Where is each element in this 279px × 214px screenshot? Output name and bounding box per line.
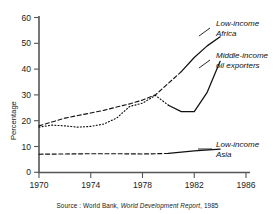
y-tick-label-20: 20 (22, 116, 32, 126)
series-line-low-income-asia-projected (39, 153, 168, 154)
y-tick-label-50: 50 (22, 38, 32, 48)
x-tick-label-1970: 1970 (30, 180, 49, 190)
x-tick-label-1978: 1978 (133, 180, 152, 190)
leader-line-africa (199, 28, 210, 36)
source-note: Source : World Bank, World Development R… (0, 202, 275, 209)
series-line-middle-income-oil-exporters-actual (168, 61, 220, 111)
series-line-middle-income-oil-exporters-projected (39, 95, 168, 127)
x-axis-tick-labels: 1970 1974 1978 1982 1986 (30, 180, 256, 190)
x-tick-label-1974: 1974 (81, 180, 100, 190)
x-axis-ticks (39, 173, 246, 179)
data-series-layer (39, 37, 220, 154)
y-tick-label-40: 40 (22, 64, 32, 74)
series-annotations: Low-income Africa Middle-income oil expo… (215, 19, 269, 159)
y-axis-tick-labels: 60 50 40 30 20 10 0 (22, 13, 32, 178)
x-tick-label-1982: 1982 (185, 180, 204, 190)
annotation-africa-line2: Africa (215, 29, 237, 38)
source-prefix: Source : World Bank, (56, 202, 118, 209)
y-tick-label-30: 30 (22, 90, 32, 100)
line-chart-canvas: 60 50 40 30 20 10 0 Percentage 1970 1974… (0, 0, 279, 214)
annotation-oil-exporters-line2: oil exporters (216, 61, 260, 70)
series-line-low-income-asia-actual (168, 149, 220, 153)
x-tick-label-1986: 1986 (237, 180, 256, 190)
annotation-oil-exporters-line1: Middle-income (216, 51, 269, 60)
y-tick-label-60: 60 (22, 13, 32, 23)
annotation-asia-line1: Low-income (216, 140, 260, 149)
annotation-africa-line1: Low-income (216, 19, 260, 28)
y-axis-title: Percentage (9, 101, 18, 140)
leader-line-oil-exporters (199, 60, 210, 68)
label-leader-lines (198, 28, 212, 149)
annotation-asia-line2: Asia (215, 150, 232, 159)
chart-figure: 60 50 40 30 20 10 0 Percentage 1970 1974… (0, 0, 279, 214)
source-year: , 1985 (200, 202, 218, 209)
source-report-title: World Development Report (121, 202, 200, 209)
y-tick-label-10: 10 (22, 142, 32, 152)
y-tick-label-0: 0 (26, 167, 31, 177)
